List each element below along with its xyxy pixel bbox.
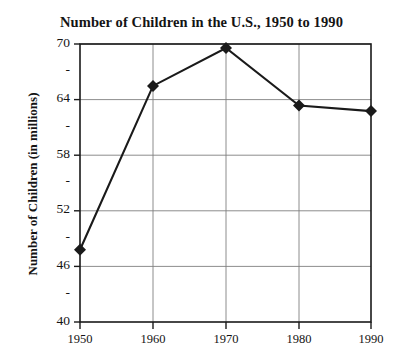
x-tick-label-1960: 1960 <box>130 332 176 347</box>
y-tick-minor-55: - <box>44 173 70 189</box>
data-point-1990 <box>365 105 377 117</box>
y-tick-label-64: 64 <box>44 90 70 106</box>
data-point-1950 <box>74 244 86 256</box>
y-axis-ticks <box>74 44 80 322</box>
x-axis-ticks <box>80 322 371 329</box>
axis-frame <box>80 44 371 322</box>
x-tick-label-1990: 1990 <box>348 332 394 347</box>
x-tick-label-1950: 1950 <box>57 332 103 347</box>
y-tick-minor-67: - <box>44 62 70 78</box>
y-tick-minor-49: - <box>44 229 70 245</box>
data-line <box>80 48 371 250</box>
data-point-1960 <box>147 80 159 92</box>
data-series-children <box>74 42 377 256</box>
y-tick-minor-43: - <box>44 285 70 301</box>
chart-figure: Number of Children in the U.S., 1950 to … <box>0 0 403 360</box>
y-tick-label-46: 46 <box>44 257 70 273</box>
y-tick-label-70: 70 <box>44 35 70 51</box>
x-tick-label-1970: 1970 <box>203 332 249 347</box>
x-tick-label-1980: 1980 <box>276 332 322 347</box>
y-tick-label-58: 58 <box>44 146 70 162</box>
y-tick-minor-61: - <box>44 118 70 134</box>
y-tick-label-40: 40 <box>44 313 70 329</box>
gridlines <box>80 44 371 322</box>
y-tick-label-52: 52 <box>44 201 70 217</box>
